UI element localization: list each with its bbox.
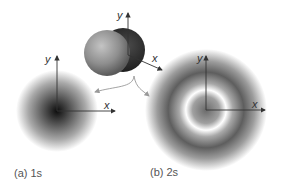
- 2s-x-label: x: [251, 98, 258, 110]
- arrow-to-1s: [95, 76, 134, 92]
- 1s-x-label: x: [103, 99, 110, 111]
- caption-1s: (a) 1s: [14, 167, 42, 179]
- arrow-to-2s: [134, 76, 149, 96]
- 1s-y-label: y: [44, 53, 52, 65]
- sphere-y-label: y: [116, 9, 124, 21]
- orbital-sphere-3d: y x: [84, 9, 162, 76]
- sphere-x-label: x: [151, 52, 158, 64]
- orbital-2s: y x: [145, 49, 267, 171]
- orbital-diagram: y x y x y x: [0, 0, 281, 187]
- caption-2s: (b) 2s: [150, 166, 178, 178]
- sphere-front: [84, 30, 130, 76]
